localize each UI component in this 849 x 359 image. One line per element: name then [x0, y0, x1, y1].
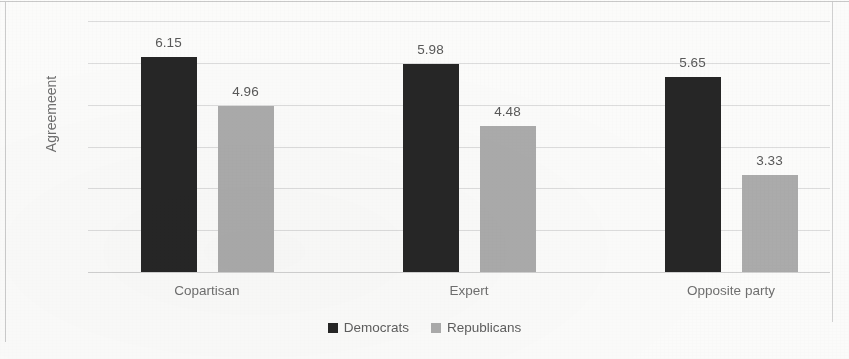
bar-value-label: 6.15	[127, 35, 211, 50]
bar-value-label: 3.33	[728, 153, 812, 168]
figure-border-left	[5, 2, 6, 342]
chart-legend: Democrats Republicans	[0, 320, 849, 335]
legend-swatch-republicans	[431, 323, 441, 333]
gridline	[88, 21, 830, 22]
legend-label-republicans: Republicans	[447, 320, 521, 335]
y-axis-title: Agreemeent	[43, 54, 59, 174]
chart-figure: Agreemeent 7654321 Democrats Republicans…	[0, 0, 849, 359]
legend-item-republicans[interactable]: Republicans	[431, 320, 521, 335]
bar-opposite-party-republicans[interactable]	[742, 175, 798, 272]
bar-opposite-party-democrats[interactable]	[665, 77, 721, 272]
x-axis-category-label: Opposite party	[651, 283, 811, 298]
x-axis-category-label: Expert	[389, 283, 549, 298]
legend-item-democrats[interactable]: Democrats	[328, 320, 409, 335]
bar-value-label: 4.96	[204, 84, 288, 99]
gridline	[88, 272, 830, 273]
bar-expert-democrats[interactable]	[403, 64, 459, 272]
bar-value-label: 5.65	[651, 55, 735, 70]
bar-expert-republicans[interactable]	[480, 126, 536, 272]
figure-border-top	[0, 1, 849, 2]
legend-swatch-democrats	[328, 323, 338, 333]
legend-label-democrats: Democrats	[344, 320, 409, 335]
bar-value-label: 4.48	[466, 104, 550, 119]
bar-value-label: 5.98	[389, 42, 473, 57]
bar-copartisan-republicans[interactable]	[218, 106, 274, 272]
x-axis-category-label: Copartisan	[127, 283, 287, 298]
figure-border-right	[832, 2, 833, 322]
bar-copartisan-democrats[interactable]	[141, 57, 197, 272]
